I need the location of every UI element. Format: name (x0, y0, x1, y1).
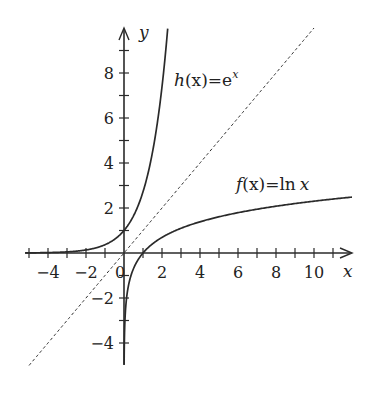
tick-labels: −4−20246810−4−22468 (36, 64, 324, 353)
f-function-label: f(x)=lnx (234, 174, 310, 194)
h-exponent: x (232, 68, 239, 81)
y-tick-label: 4 (104, 154, 114, 173)
h-arg: (x) (185, 70, 208, 90)
y-tick-label: 2 (104, 199, 114, 218)
x-tick-label: −4 (36, 263, 60, 282)
h-name: h (174, 70, 185, 90)
x-tick-label: 0 (115, 263, 125, 282)
x-tick-label: −2 (74, 263, 98, 282)
y-axis-label: y (138, 22, 149, 42)
x-tick-label: 6 (233, 263, 243, 282)
x-tick-label: 8 (271, 263, 281, 282)
x-tick-label: 10 (304, 263, 324, 282)
y-tick-label: 6 (104, 109, 114, 128)
x-tick-label: 2 (157, 263, 167, 282)
curve-exp (25, 29, 168, 253)
curve-identity (29, 28, 314, 365)
f-arg: (x) (242, 174, 265, 194)
x-tick-label: 4 (195, 263, 205, 282)
f-eq: =ln (265, 174, 296, 194)
y-tick-label: −4 (90, 334, 114, 353)
y-tick-label: 8 (104, 64, 114, 83)
f-var: x (300, 174, 310, 194)
y-tick-label: −2 (90, 289, 114, 308)
function-graph: −4−20246810−4−22468 x y h(x)=ex f(x)=lnx (0, 0, 377, 395)
x-axis-label: x (343, 261, 353, 281)
ticks (29, 51, 333, 344)
h-function-label: h(x)=ex (174, 68, 239, 90)
h-eq: =e (208, 70, 232, 90)
